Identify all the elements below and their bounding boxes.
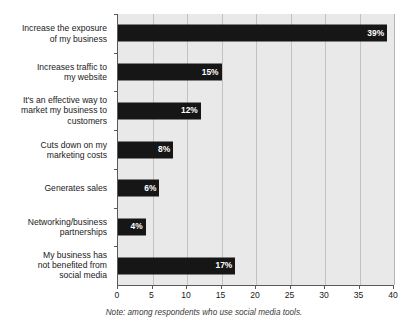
category-label: Cuts down on mymarketing costs xyxy=(0,139,107,160)
category-tick xyxy=(114,91,118,92)
axis-tick xyxy=(393,286,394,289)
category-label: Increase the exposureof my business xyxy=(0,23,107,44)
axis-tick xyxy=(324,286,325,289)
category-label: Networking/businesspartnerships xyxy=(0,217,107,238)
axis-tick-label: 30 xyxy=(319,290,329,300)
category-tick xyxy=(114,53,118,54)
bar: 8% xyxy=(118,141,173,158)
bar-value-label: 12% xyxy=(181,107,198,115)
axis-tick-label: 40 xyxy=(388,290,398,300)
axis-tick xyxy=(359,286,360,289)
bar-value-label: 15% xyxy=(202,68,219,76)
bar-value-label: 39% xyxy=(367,29,384,37)
category-tick xyxy=(114,246,118,247)
value-axis: 0510152025303540 xyxy=(117,286,394,306)
gridline xyxy=(256,14,257,285)
plot-area: 39%15%12%8%6%4%17% xyxy=(117,14,394,286)
category-tick xyxy=(114,14,118,15)
axis-tick-label: 25 xyxy=(285,290,295,300)
gridline xyxy=(222,14,223,285)
bar-value-label: 8% xyxy=(158,145,170,153)
bar-value-label: 17% xyxy=(216,261,233,269)
category-tick xyxy=(114,208,118,209)
gridline xyxy=(325,14,326,285)
axis-tick-label: 35 xyxy=(354,290,364,300)
axis-tick xyxy=(221,286,222,289)
axis-tick xyxy=(186,286,187,289)
bar: 6% xyxy=(118,180,159,197)
bar-value-label: 6% xyxy=(144,184,156,192)
chart-footnote: Note: among respondents who use social m… xyxy=(0,308,408,317)
gridline xyxy=(394,14,395,285)
bar: 17% xyxy=(118,257,235,274)
axis-tick xyxy=(290,286,291,289)
category-tick xyxy=(114,130,118,131)
axis-tick-label: 15 xyxy=(216,290,226,300)
axis-tick-label: 10 xyxy=(181,290,191,300)
bar: 4% xyxy=(118,218,146,235)
category-label: Increases traffic tomy website xyxy=(0,62,107,83)
category-tick xyxy=(114,169,118,170)
bar: 15% xyxy=(118,64,222,81)
category-label: My business hasnot benefited fromsocial … xyxy=(0,250,107,281)
axis-tick xyxy=(152,286,153,289)
bar-value-label: 4% xyxy=(130,223,142,231)
bar: 12% xyxy=(118,102,201,119)
axis-tick xyxy=(255,286,256,289)
gridline xyxy=(291,14,292,285)
gridline xyxy=(187,14,188,285)
category-label: Generates sales xyxy=(0,183,107,193)
axis-tick-label: 0 xyxy=(115,290,120,300)
axis-tick-label: 20 xyxy=(250,290,260,300)
bar: 39% xyxy=(118,25,387,42)
category-label: It's an effective way tomarket my busine… xyxy=(0,95,107,126)
category-axis: Increase the exposureof my businessIncre… xyxy=(0,14,112,285)
gridline xyxy=(360,14,361,285)
axis-tick-label: 5 xyxy=(149,290,154,300)
bar-chart: Increase the exposureof my businessIncre… xyxy=(0,0,408,325)
axis-tick xyxy=(117,286,118,289)
